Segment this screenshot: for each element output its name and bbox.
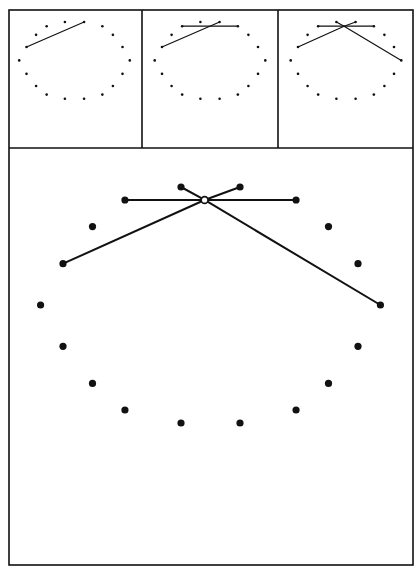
connecting-line (344, 26, 401, 60)
point-dot (236, 183, 243, 190)
point-dot (121, 73, 124, 76)
point-dot (297, 46, 300, 49)
point-dot (83, 21, 86, 24)
point-dot (289, 59, 292, 62)
point-dot (218, 98, 221, 101)
point-dot (35, 34, 38, 37)
point-dot (354, 343, 361, 350)
point-dot (247, 85, 250, 88)
point-dot (112, 85, 115, 88)
point-dot (393, 46, 396, 49)
point-dot (317, 25, 320, 28)
point-dot (317, 93, 320, 96)
connecting-line (336, 22, 344, 26)
point-dot (64, 98, 67, 101)
point-dot (297, 73, 300, 76)
point-dot (199, 98, 202, 101)
point-dot (18, 59, 21, 62)
point-dot (121, 46, 124, 49)
intersection-point (201, 197, 208, 204)
point-dot (177, 419, 184, 426)
point-dot (237, 93, 240, 96)
connecting-line (205, 200, 381, 305)
point-dot (292, 196, 299, 203)
point-dot (161, 73, 164, 76)
point-dot (45, 93, 48, 96)
connecting-line (205, 187, 240, 200)
point-dot (236, 419, 243, 426)
point-dot (335, 21, 338, 24)
point-dot (306, 85, 309, 88)
point-dot (354, 21, 357, 24)
point-dot (383, 85, 386, 88)
point-dot (257, 46, 260, 49)
point-dot (181, 25, 184, 28)
panel-step-4-enlarged (37, 183, 384, 426)
point-dot (101, 25, 104, 28)
point-dot (325, 380, 332, 387)
point-dot (373, 93, 376, 96)
point-dot (335, 98, 338, 101)
point-dot (25, 46, 28, 49)
point-dot (128, 59, 131, 62)
point-dot (306, 34, 309, 37)
point-dot (292, 406, 299, 413)
figure (0, 0, 420, 572)
point-dot (177, 183, 184, 190)
point-dot (59, 260, 66, 267)
point-dot (257, 73, 260, 76)
point-dot (45, 25, 48, 28)
point-dot (112, 34, 115, 37)
point-dot (89, 223, 96, 230)
point-dot (325, 223, 332, 230)
point-dot (218, 21, 221, 24)
point-dot (170, 34, 173, 37)
point-dot (170, 85, 173, 88)
point-dot (199, 21, 202, 24)
point-dot (89, 380, 96, 387)
point-dot (59, 343, 66, 350)
point-dot (237, 25, 240, 28)
point-dot (64, 21, 67, 24)
point-dot (161, 46, 164, 49)
point-dot (383, 34, 386, 37)
point-dot (83, 98, 86, 101)
panel-step-3 (289, 21, 402, 100)
panels (18, 21, 403, 427)
connecting-line (63, 200, 205, 264)
panel-step-2 (153, 21, 266, 100)
circle-points-diagram (0, 0, 420, 572)
point-dot (264, 59, 267, 62)
point-dot (25, 73, 28, 76)
point-dot (377, 301, 384, 308)
point-dot (354, 98, 357, 101)
point-dot (35, 85, 38, 88)
point-dot (37, 301, 44, 308)
point-dot (181, 93, 184, 96)
point-dot (247, 34, 250, 37)
point-dot (153, 59, 156, 62)
connecting-line (298, 26, 344, 47)
point-dot (354, 260, 361, 267)
panel-step-1 (18, 21, 131, 100)
point-dot (373, 25, 376, 28)
connecting-line (344, 22, 356, 26)
point-dot (101, 93, 104, 96)
point-dot (121, 196, 128, 203)
point-dot (121, 406, 128, 413)
point-dot (400, 59, 403, 62)
point-dot (393, 73, 396, 76)
